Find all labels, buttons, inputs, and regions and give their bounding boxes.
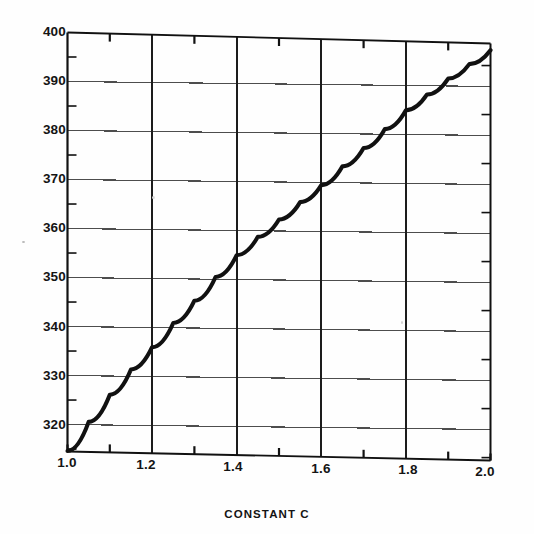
scan-speck [22,241,25,243]
ytick-label-390: 390 [26,73,66,88]
xtick-label-1-8: 1.8 [386,462,430,477]
xtick-label-1-0: 1.0 [45,455,89,470]
ytick-label-380: 380 [26,122,66,137]
xtick-label-2-0: 2.0 [463,464,507,479]
xtick-label-1-6: 1.6 [299,461,343,476]
data-line-0 [68,50,491,451]
chart-figure: 400 390 380 370 360 350 340 330 320 1.0 … [0,0,534,534]
line-chart-plot [0,0,534,534]
scan-speck [152,196,155,199]
ytick-label-330: 330 [26,368,66,383]
ytick-label-350: 350 [26,269,66,284]
ytick-label-370: 370 [26,171,66,186]
ytick-label-340: 340 [26,319,66,334]
ytick-label-320: 320 [26,417,66,432]
x-axis-title: CONSTANT C [0,508,534,520]
ytick-label-360: 360 [26,220,66,235]
xtick-label-1-4: 1.4 [211,459,255,474]
scan-speck [401,321,403,324]
xtick-label-1-2: 1.2 [124,457,168,472]
ytick-label-400: 400 [26,24,66,39]
